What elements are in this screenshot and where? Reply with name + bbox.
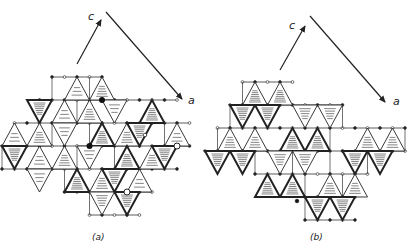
polyhedron-triangle bbox=[305, 197, 330, 220]
polyhedron-triangle bbox=[305, 128, 330, 151]
lattice-node bbox=[176, 99, 179, 102]
panel-a-caption: (a) bbox=[92, 232, 105, 242]
cation-node bbox=[87, 143, 93, 149]
polyhedron-triangle bbox=[27, 146, 52, 169]
polyhedron-triangle bbox=[65, 77, 90, 100]
lattice-node bbox=[266, 81, 269, 84]
lattice-node bbox=[26, 122, 29, 125]
polyhedron-triangle bbox=[330, 197, 355, 220]
polyhedron-triangle bbox=[280, 174, 305, 197]
polyhedron-triangle bbox=[343, 151, 368, 174]
polyhedron-triangle bbox=[230, 151, 255, 174]
axis-c-label: c bbox=[88, 10, 94, 23]
lattice-node bbox=[354, 219, 357, 222]
polyhedron-triangle bbox=[115, 146, 140, 169]
panel-b: ca bbox=[143, 16, 406, 221]
lattice-node bbox=[163, 99, 166, 102]
panel-b-caption: (b) bbox=[310, 232, 323, 242]
panel-a: ca bbox=[1, 10, 195, 216]
lattice-node bbox=[354, 127, 357, 130]
polyhedron-triangle bbox=[27, 169, 52, 192]
polyhedron-triangle bbox=[368, 151, 393, 174]
axis-a-arrow bbox=[106, 12, 182, 99]
polyhedron-triangle bbox=[65, 169, 90, 192]
polyhedron-triangle bbox=[140, 100, 165, 123]
polyhedron-triangle bbox=[52, 100, 77, 123]
polyhedron-triangle bbox=[77, 146, 102, 169]
axis-c-arrow bbox=[280, 26, 305, 70]
lattice-node bbox=[63, 76, 66, 79]
lattice-node bbox=[188, 122, 191, 125]
axis-a-arrow bbox=[310, 16, 385, 102]
polyhedron-triangle bbox=[2, 123, 27, 146]
axis-a-label: a bbox=[188, 94, 195, 107]
polyhedron-triangle bbox=[230, 105, 255, 128]
lattice-node bbox=[316, 173, 319, 176]
polyhedron-triangle bbox=[205, 151, 230, 174]
polyhedron-triangle bbox=[90, 123, 115, 146]
cation-node bbox=[99, 97, 105, 103]
crystal-structure-figure: ca ca (a) (b) bbox=[0, 0, 417, 252]
isolated-node bbox=[143, 133, 147, 137]
polyhedron-triangle bbox=[255, 105, 280, 128]
lattice-node bbox=[379, 127, 382, 130]
polyhedron-triangle bbox=[102, 100, 127, 123]
polyhedron-triangle bbox=[127, 169, 152, 192]
lattice-node bbox=[291, 81, 294, 84]
polyhedron-triangle bbox=[27, 100, 52, 123]
polyhedron-triangle bbox=[243, 82, 268, 105]
lattice-node bbox=[113, 214, 116, 217]
polyhedron-triangle bbox=[2, 146, 27, 169]
lattice-node bbox=[329, 219, 332, 222]
polyhedron-triangle bbox=[268, 82, 293, 105]
vacancy-node bbox=[174, 143, 180, 149]
axis-c-label: c bbox=[289, 19, 295, 32]
polyhedron-triangle bbox=[52, 123, 77, 146]
polyhedron-triangle bbox=[280, 128, 305, 151]
axis-a-label: a bbox=[393, 95, 400, 108]
polyhedron-triangle bbox=[255, 174, 280, 197]
lattice-node bbox=[138, 214, 141, 217]
vacancy-node bbox=[124, 189, 130, 195]
lattice-node bbox=[138, 99, 141, 102]
lattice-node bbox=[279, 127, 282, 130]
lattice-node bbox=[176, 168, 179, 171]
axis-c-arrow bbox=[77, 20, 101, 64]
isolated-node bbox=[295, 199, 299, 203]
